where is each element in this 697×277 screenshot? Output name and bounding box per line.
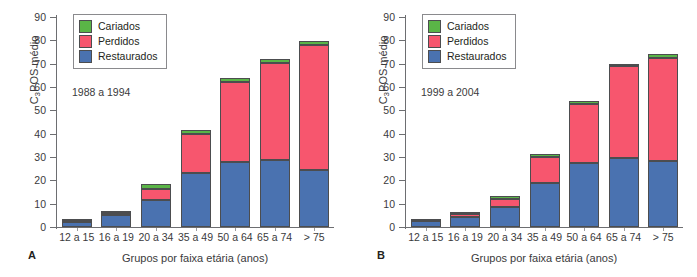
x-axis-tick — [116, 228, 117, 231]
bar-segment-cariados[interactable] — [101, 211, 131, 213]
bar-segment-cariados[interactable] — [181, 130, 211, 134]
y-axis-tick-label: 40 — [349, 129, 395, 139]
bar-segment-perdidos[interactable] — [141, 189, 171, 200]
y-axis-title-prefix: C — [377, 96, 389, 104]
bar-segment-cariados[interactable] — [609, 64, 639, 66]
y-axis-title-suffix: POS médio — [28, 36, 40, 92]
y-axis-tick — [50, 180, 56, 181]
bar-segment-restaurados[interactable] — [220, 162, 250, 227]
legend-item[interactable]: Cariados — [428, 19, 507, 34]
bar-segment-restaurados[interactable] — [62, 222, 92, 227]
y-axis-tick — [50, 204, 56, 205]
bar-segment-cariados[interactable] — [530, 154, 560, 157]
bar-stack[interactable] — [609, 17, 639, 227]
y-axis-tick-label: 20 — [349, 175, 395, 185]
bar-segment-perdidos[interactable] — [569, 104, 599, 162]
bar-segment-cariados[interactable] — [648, 54, 678, 58]
bar-segment-restaurados[interactable] — [260, 160, 290, 227]
bar-segment-perdidos[interactable] — [450, 214, 480, 217]
y-axis-title-subscript: 3 — [33, 92, 42, 96]
x-axis-tick — [314, 228, 315, 231]
bar-segment-cariados[interactable] — [141, 184, 171, 189]
legend-label: Restaurados — [447, 51, 507, 62]
x-axis-tick-label: > 75 — [637, 231, 689, 243]
chart-panel-b: 9080706050403020100C3POS médio12 a 1516 … — [349, 0, 697, 277]
y-axis-tick — [399, 110, 405, 111]
bar-segment-cariados[interactable] — [62, 219, 92, 221]
legend-swatch-icon — [79, 35, 92, 48]
legend-label: Perdidos — [447, 36, 488, 47]
bar-segment-restaurados[interactable] — [450, 217, 480, 227]
x-axis-tick — [77, 228, 78, 231]
bar-segment-perdidos[interactable] — [101, 213, 131, 215]
bar-stack[interactable] — [220, 17, 250, 227]
bar-segment-restaurados[interactable] — [141, 200, 171, 227]
bar-stack[interactable] — [530, 17, 560, 227]
x-axis-title: Grupos por faixa etária (anos) — [405, 252, 683, 264]
bar-segment-restaurados[interactable] — [181, 173, 211, 227]
y-axis-title: C3POS médio — [377, 10, 393, 130]
legend-item[interactable]: Cariados — [79, 19, 158, 34]
y-axis-tick — [399, 64, 405, 65]
legend-item[interactable]: Perdidos — [79, 34, 158, 49]
legend-item[interactable]: Restaurados — [428, 49, 507, 64]
y-axis-tick — [50, 227, 56, 228]
bar-segment-restaurados[interactable] — [648, 161, 678, 227]
bar-segment-perdidos[interactable] — [609, 66, 639, 158]
bar-segment-cariados[interactable] — [490, 196, 520, 200]
bar-segment-perdidos[interactable] — [530, 157, 560, 183]
x-axis-tick — [465, 228, 466, 231]
legend-item[interactable]: Restaurados — [79, 49, 158, 64]
bar-stack[interactable] — [299, 17, 329, 227]
y-axis-tick-label: 40 — [0, 129, 46, 139]
bar-segment-perdidos[interactable] — [490, 199, 520, 206]
bar-stack[interactable] — [181, 17, 211, 227]
y-axis-tick-label: 0 — [349, 222, 395, 232]
bar-segment-restaurados[interactable] — [569, 163, 599, 227]
x-axis-tick-label: > 75 — [288, 231, 340, 243]
bar-segment-perdidos[interactable] — [260, 63, 290, 159]
bar-segment-cariados[interactable] — [220, 78, 250, 82]
bar-segment-perdidos[interactable] — [220, 82, 250, 162]
bar-segment-cariados[interactable] — [450, 212, 480, 214]
legend-swatch-icon — [428, 20, 441, 33]
bar-segment-cariados[interactable] — [411, 219, 441, 221]
bar-segment-restaurados[interactable] — [609, 158, 639, 227]
legend-item[interactable]: Perdidos — [428, 34, 507, 49]
bar-segment-cariados[interactable] — [569, 101, 599, 104]
legend-swatch-icon — [79, 50, 92, 63]
y-axis-title: C3POS médio — [28, 10, 44, 130]
bar-stack[interactable] — [648, 17, 678, 227]
bar-segment-restaurados[interactable] — [530, 183, 560, 227]
y-axis-tick — [50, 64, 56, 65]
y-axis-tick — [399, 87, 405, 88]
y-axis-tick-label: 0 — [0, 222, 46, 232]
bar-segment-restaurados[interactable] — [101, 215, 131, 227]
chart-legend: CariadosPerdidosRestaurados — [73, 14, 167, 69]
y-axis-tick — [399, 204, 405, 205]
x-axis-tick — [545, 228, 546, 231]
bar-stack[interactable] — [260, 17, 290, 227]
y-axis-tick — [50, 87, 56, 88]
y-axis-tick — [399, 180, 405, 181]
y-axis-tick-label: 10 — [349, 199, 395, 209]
y-axis-tick — [50, 110, 56, 111]
bar-segment-perdidos[interactable] — [648, 58, 678, 162]
bar-stack[interactable] — [569, 17, 599, 227]
legend-label: Cariados — [98, 21, 140, 32]
y-axis-title-subscript: 3 — [382, 92, 391, 96]
y-axis-tick — [50, 40, 56, 41]
period-annotation: 1988 a 1994 — [72, 86, 130, 98]
bar-segment-restaurados[interactable] — [411, 221, 441, 227]
y-axis-tick — [399, 134, 405, 135]
bar-segment-perdidos[interactable] — [181, 134, 211, 173]
x-axis-tick — [156, 228, 157, 231]
panel-letter: A — [28, 249, 36, 261]
x-axis-tick — [624, 228, 625, 231]
bar-segment-cariados[interactable] — [260, 59, 290, 63]
bar-segment-perdidos[interactable] — [299, 45, 329, 170]
bar-segment-restaurados[interactable] — [299, 170, 329, 227]
bar-segment-restaurados[interactable] — [490, 207, 520, 227]
bar-segment-cariados[interactable] — [299, 41, 329, 45]
period-annotation: 1999 a 2004 — [421, 86, 479, 98]
